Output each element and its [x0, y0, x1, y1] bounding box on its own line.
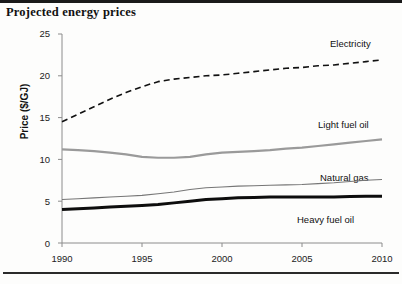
page-title: Projected energy prices: [6, 5, 136, 20]
top-divider: [0, 0, 402, 3]
chart-figure: Price ($/GJ) 25 20 15 10 5 0 1990 1995 2…: [0, 22, 402, 272]
plot-canvas: [0, 22, 402, 272]
chart-page: Projected energy prices Price ($/GJ) 25 …: [0, 0, 402, 284]
bottom-divider: [3, 272, 399, 274]
